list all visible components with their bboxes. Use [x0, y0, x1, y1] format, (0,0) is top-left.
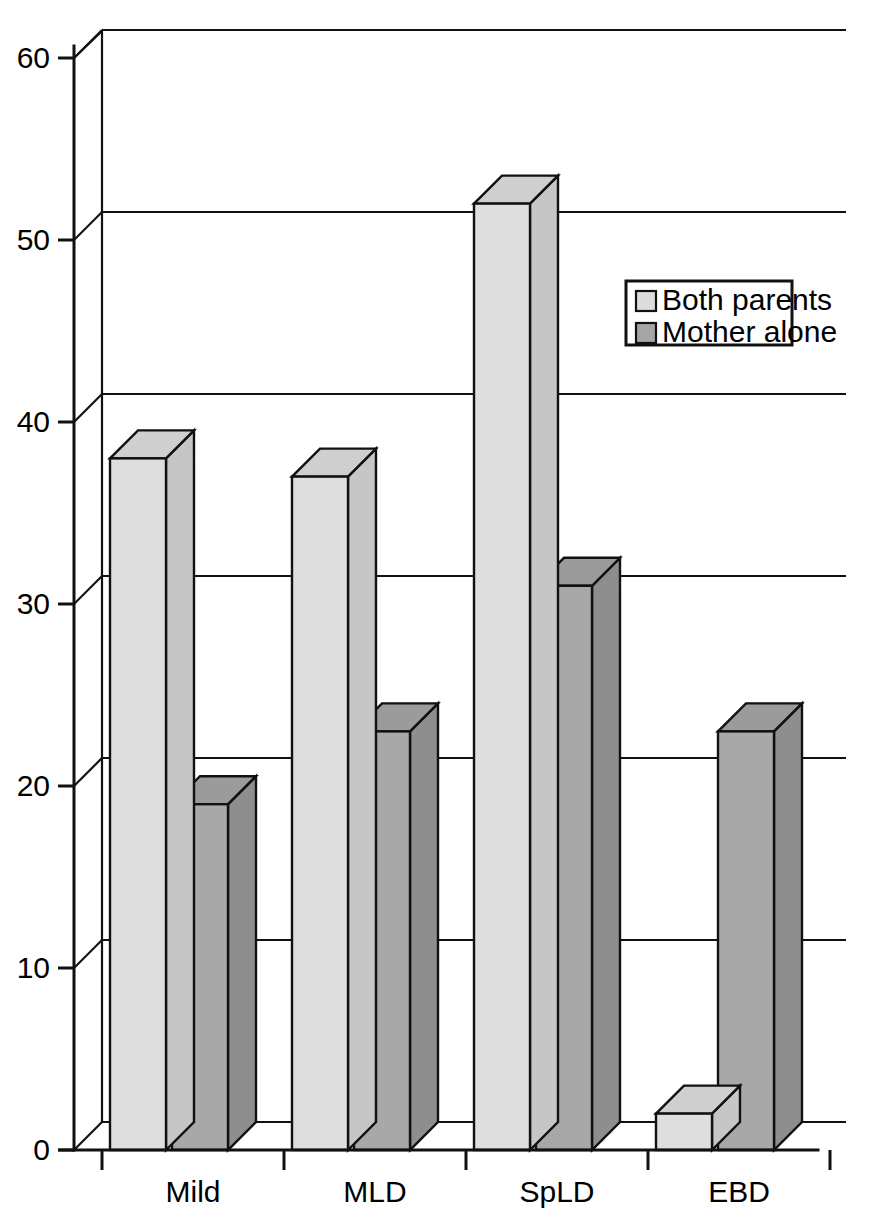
bar-front-face	[110, 458, 166, 1150]
bar-chart-figure: 0102030405060 MildMLDSpLDEBD Both parent…	[0, 0, 880, 1213]
floor-depth-edge	[74, 1122, 102, 1150]
bar-front-face	[474, 204, 530, 1150]
y-tick-label-50: 50	[17, 223, 50, 256]
bar-front-face	[292, 477, 348, 1150]
y-tick-depth-20	[74, 758, 102, 786]
bar-side-face	[228, 776, 256, 1150]
y-tick-label-20: 20	[17, 769, 50, 802]
y-tick-depth-30	[74, 576, 102, 604]
y-tick-depth-10	[74, 940, 102, 968]
bar-side-face	[774, 703, 802, 1150]
y-tick-label-40: 40	[17, 405, 50, 438]
bar-side-face	[592, 558, 620, 1150]
y-tick-depth-40	[74, 394, 102, 422]
bar-side-face	[530, 176, 558, 1150]
y-axis-ticks: 0102030405060	[17, 30, 102, 1166]
legend-label-both-parents: Both parents	[662, 283, 832, 316]
bar-side-face	[166, 430, 194, 1150]
x-axis-category-labels: MildMLDSpLDEBD	[165, 1175, 769, 1208]
y-tick-depth-50	[74, 212, 102, 240]
legend-entries: Both parentsMother alone	[636, 283, 837, 348]
x-label-mld: MLD	[343, 1175, 406, 1208]
legend-swatch-both-parents	[636, 291, 656, 311]
bar-front-face	[656, 1114, 712, 1150]
x-label-spld: SpLD	[519, 1175, 594, 1208]
y-tick-depth-60	[74, 30, 102, 58]
y-tick-label-60: 60	[17, 41, 50, 74]
legend-label-mother-alone: Mother alone	[662, 315, 837, 348]
x-label-ebd: EBD	[708, 1175, 770, 1208]
bar-mild-both-parents	[110, 430, 194, 1150]
x-label-mild: Mild	[165, 1175, 220, 1208]
x-axis-ticks	[102, 1150, 830, 1170]
y-tick-label-10: 10	[17, 951, 50, 984]
legend[interactable]: Both parentsMother alone	[626, 281, 837, 348]
y-tick-label-0: 0	[33, 1133, 50, 1166]
chart-canvas: 0102030405060 MildMLDSpLDEBD Both parent…	[0, 0, 880, 1213]
bar-mld-both-parents	[292, 449, 376, 1150]
bar-side-face	[348, 449, 376, 1150]
bar-ebd-mother-alone	[718, 703, 802, 1150]
legend-swatch-mother-alone	[636, 323, 656, 343]
y-tick-label-30: 30	[17, 587, 50, 620]
bar-side-face	[410, 703, 438, 1150]
bar-spld-both-parents	[474, 176, 558, 1150]
